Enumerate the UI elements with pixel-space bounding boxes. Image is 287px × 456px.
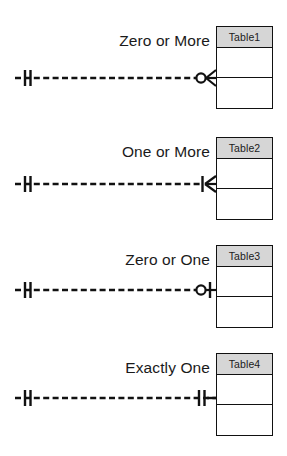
entity-table-field-row (217, 297, 272, 327)
entity-table-field-row (217, 267, 272, 297)
entity-table-field-row (217, 78, 272, 108)
entity-table-header: Table4 (217, 354, 272, 375)
connector-exactly-one (0, 344, 216, 456)
entity-table-name: Table1 (229, 31, 261, 43)
connector-zero-or-more (0, 18, 216, 130)
crowsfoot-upper-icon (205, 176, 216, 184)
entity-table-box[interactable]: Table1 (216, 26, 273, 109)
crowsfoot-lower-icon (206, 78, 216, 86)
relationship-row: Exactly One Table4 (0, 344, 287, 456)
relationship-row: Zero or One Table3 (0, 236, 287, 348)
connector-one-or-more (0, 128, 216, 240)
entity-table-field-row (217, 375, 272, 405)
entity-table-box[interactable]: Table3 (216, 245, 273, 328)
entity-table-header: Table2 (217, 138, 272, 159)
relationship-row: Zero or More Table1 (0, 18, 287, 130)
zero-circle-icon (196, 285, 205, 294)
entity-table-header: Table1 (217, 27, 272, 48)
connector-zero-or-one (0, 236, 216, 348)
entity-table-field-row (217, 189, 272, 219)
entity-table-field-row (217, 159, 272, 189)
relationship-row: One or More Table2 (0, 128, 287, 240)
crowsfoot-lower-icon (205, 184, 216, 192)
entity-table-field-row (217, 405, 272, 435)
entity-table-box[interactable]: Table2 (216, 137, 273, 220)
entity-table-name: Table4 (229, 358, 261, 370)
zero-circle-icon (196, 73, 205, 82)
entity-table-name: Table2 (229, 142, 261, 154)
er-notation-diagram: Zero or More Table1 One or More (0, 0, 287, 456)
entity-table-header: Table3 (217, 246, 272, 267)
crowsfoot-upper-icon (206, 70, 216, 78)
entity-table-field-row (217, 48, 272, 78)
entity-table-name: Table3 (229, 250, 261, 262)
entity-table-box[interactable]: Table4 (216, 353, 273, 436)
